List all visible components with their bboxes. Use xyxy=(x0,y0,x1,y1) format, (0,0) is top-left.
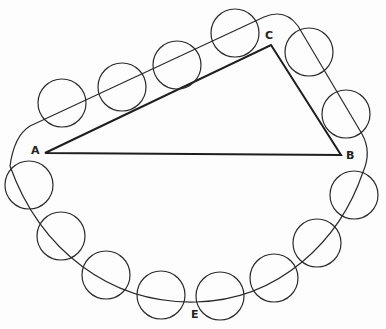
circle-13 xyxy=(293,219,341,267)
triangle-abc xyxy=(45,45,341,155)
circle-6 xyxy=(322,90,370,138)
diagram-svg xyxy=(0,0,386,329)
circle-9 xyxy=(82,251,130,299)
circle-5 xyxy=(285,28,333,76)
label-e: E xyxy=(191,309,199,320)
label-b: B xyxy=(346,150,354,161)
circle-chain xyxy=(5,9,378,320)
label-a: A xyxy=(31,145,40,156)
circle-2 xyxy=(98,63,146,111)
label-c: C xyxy=(265,30,273,41)
circle-10 xyxy=(137,271,185,319)
circle-4 xyxy=(211,9,259,57)
circle-8 xyxy=(37,212,85,260)
circle-7 xyxy=(5,161,53,209)
diagram-canvas: A C B E xyxy=(0,0,386,329)
closed-curve xyxy=(10,14,367,302)
circle-12 xyxy=(250,254,298,302)
